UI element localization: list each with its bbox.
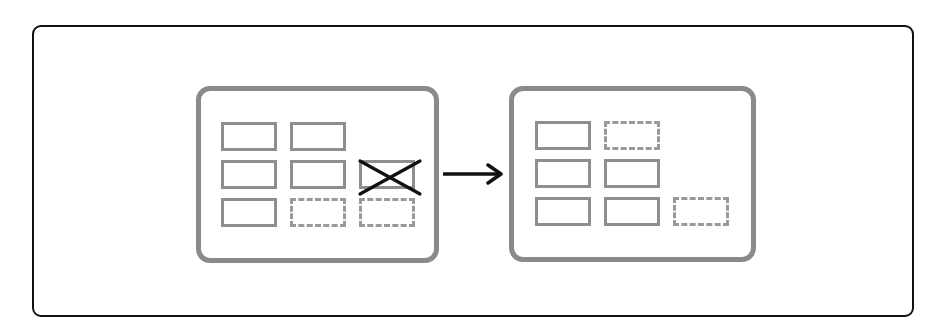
grid-item-placeholder (604, 121, 660, 150)
grid-item-filled (221, 122, 277, 151)
grid-item-placeholder (290, 198, 346, 227)
grid-item-filled (604, 159, 660, 188)
before-label: Before (201, 91, 202, 92)
arrow-right-icon (443, 163, 505, 185)
grid-item-filled (535, 159, 591, 188)
grid-item-deleted (359, 160, 415, 189)
grid-item-filled (221, 160, 277, 189)
grid-item-filled (535, 197, 591, 226)
grid-item-placeholder (359, 198, 415, 227)
grid-item-filled (221, 198, 277, 227)
grid-item-filled (535, 121, 591, 150)
grid-item-filled (290, 122, 346, 151)
delete-x-icon (358, 159, 422, 196)
transition-label: Reflow (0, 0, 1, 1)
grid-item-filled (290, 160, 346, 189)
grid-item-filled (604, 197, 660, 226)
grid-item-placeholder (673, 197, 729, 226)
after-label: After (514, 91, 515, 92)
